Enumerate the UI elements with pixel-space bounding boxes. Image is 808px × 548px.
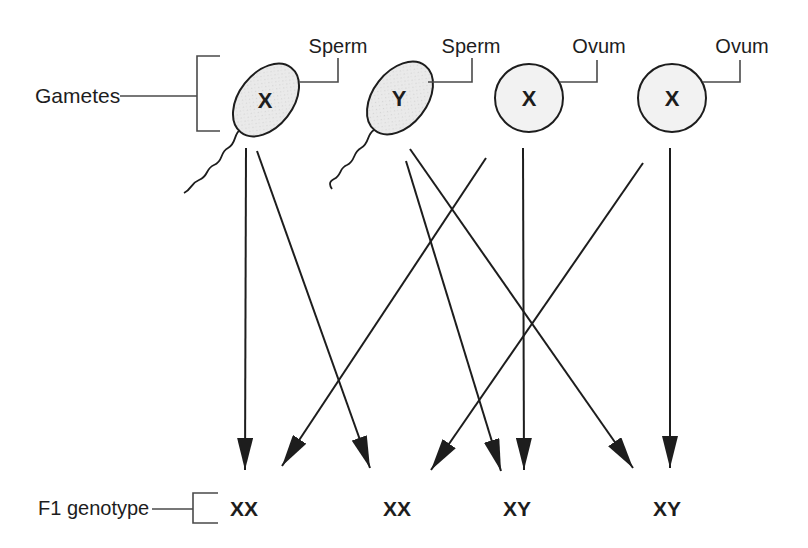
sperm-x-chromosome: X [258, 88, 273, 113]
arrow-ovum-1-to-f1-3 [523, 148, 524, 470]
arrow-ovum-1-to-f1-1 [282, 158, 486, 466]
gamete-sperm-x: X Sperm [184, 35, 367, 193]
ovum-2-label: Ovum [715, 35, 768, 57]
f1-genotype-value: XX [383, 497, 411, 520]
f1-group: F1 genotype XX XX XY XY [38, 493, 681, 523]
ovum-1-label: Ovum [572, 35, 625, 57]
gamete-sperm-y: Y Sperm [330, 35, 500, 189]
sperm-y-callout [428, 58, 472, 82]
cross-arrows [245, 148, 670, 471]
ovum-1-chromosome: X [522, 86, 537, 111]
gamete-ovum-2: X Ovum [638, 35, 769, 132]
ovum-2-callout [703, 60, 740, 82]
arrow-sperm-x-to-f1-2 [257, 151, 370, 468]
arrow-ovum-2-to-f1-2 [431, 163, 643, 470]
sperm-x-label: Sperm [309, 35, 368, 57]
sperm-x-tail [184, 129, 241, 193]
f1-genotype-label: F1 genotype [38, 497, 149, 519]
arrow-sperm-x-to-f1-1 [245, 148, 246, 470]
gametes-bracket [197, 56, 220, 131]
gametes-group: Gametes [35, 56, 220, 131]
sperm-y-label: Sperm [442, 35, 501, 57]
f1-bracket [193, 493, 218, 523]
diagram-canvas: Gametes X Sperm Y Sperm X Ovum [0, 0, 808, 548]
sperm-x-callout [299, 58, 338, 82]
gametes-label: Gametes [35, 84, 120, 107]
gamete-ovum-1: X Ovum [495, 35, 626, 132]
ovum-2-chromosome: X [665, 86, 680, 111]
arrow-sperm-y-to-f1-4 [410, 149, 633, 468]
sperm-y-tail [330, 130, 374, 189]
f1-genotype-value: XY [503, 497, 531, 520]
ovum-1-callout [560, 60, 597, 82]
sperm-y-chromosome: Y [392, 86, 407, 111]
f1-genotype-value: XX [230, 497, 258, 520]
f1-genotype-value: XY [653, 497, 681, 520]
sex-determination-diagram: Gametes X Sperm Y Sperm X Ovum [0, 0, 808, 548]
